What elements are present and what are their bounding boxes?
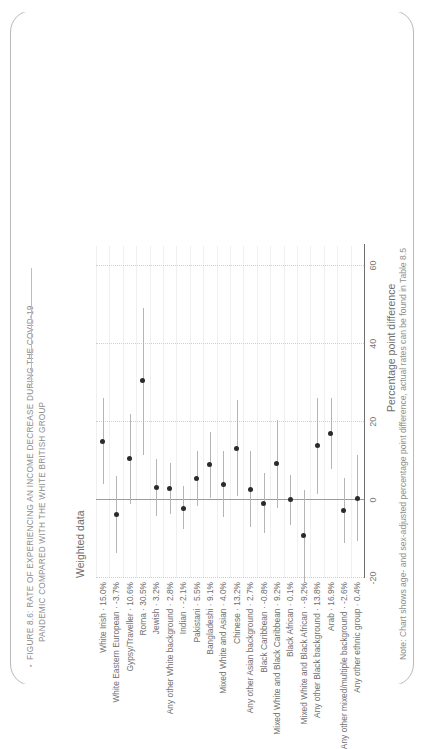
category-label: Black African · 0.1%: [285, 582, 295, 657]
category-label: Any other mixed/multiple background · -2…: [339, 582, 349, 749]
data-point[interactable]: [100, 439, 105, 444]
category-label: Gypsy/Traveller · 10.6%: [125, 582, 135, 672]
category-gridline: [243, 246, 244, 578]
category-gridline: [310, 246, 311, 578]
category-label: White Irish · 15.0%: [98, 582, 108, 653]
category-label: Roma · 30.5%: [138, 582, 148, 636]
category-label: Mixed White and Asian · 4.0%: [218, 582, 228, 694]
data-point[interactable]: [127, 456, 132, 461]
data-point[interactable]: [234, 446, 239, 451]
category-gridline: [150, 246, 151, 578]
value-gridline: [96, 264, 364, 266]
x-axis-label: Percentage point difference: [385, 284, 397, 412]
category-gridline: [176, 246, 177, 578]
x-axis-tick-label: 0: [368, 497, 378, 502]
category-label: Any other Black background · 13.8%: [312, 582, 322, 718]
category-gridline: [136, 246, 137, 578]
data-point[interactable]: [248, 487, 253, 492]
x-axis-tick-label: 40: [368, 339, 378, 349]
title-bullet-icon: ▪: [27, 665, 34, 667]
category-gridline: [351, 246, 352, 578]
category-label: Pakistani · 5.5%: [192, 582, 202, 643]
category-gridline: [109, 246, 110, 578]
category-gridline: [257, 246, 258, 578]
category-gridline: [123, 246, 124, 578]
x-axis-tick-label: -20: [368, 571, 378, 584]
data-point[interactable]: [288, 497, 293, 502]
data-point[interactable]: [207, 462, 212, 467]
chart-subtitle: Weighted data: [74, 510, 86, 578]
category-label: Any other Asian background · 2.7%: [245, 582, 255, 713]
data-point[interactable]: [355, 496, 360, 501]
category-axis-labels: White Irish · 15.0%White Eastern Europea…: [96, 582, 364, 700]
x-axis-tick-label: 20: [368, 417, 378, 427]
category-label: Bangladeshi · 9.1%: [205, 582, 215, 655]
category-gridline: [96, 246, 97, 578]
value-gridline: [96, 576, 364, 578]
data-point[interactable]: [341, 508, 346, 513]
category-gridline: [270, 246, 271, 578]
frame-mask-right: [0, 0, 423, 12]
category-gridline: [203, 246, 204, 578]
data-point[interactable]: [194, 476, 199, 481]
category-label: Arab · 16.9%: [326, 582, 336, 631]
data-point[interactable]: [301, 533, 306, 538]
category-label: Mixed White and Black Caribbean · 9.2%: [272, 582, 282, 735]
category-label: White Eastern European · -3.7%: [111, 582, 121, 703]
category-gridline: [190, 246, 191, 578]
category-label: Chinese · 13.2%: [232, 582, 242, 644]
data-point[interactable]: [154, 485, 159, 490]
data-point[interactable]: [221, 482, 226, 487]
category-label: Indian · -2.1%: [178, 582, 188, 634]
data-point[interactable]: [181, 506, 186, 511]
category-gridline: [284, 246, 285, 578]
category-label: Mixed White and Black African · -9.2%: [299, 582, 309, 724]
plot-area: [96, 246, 364, 578]
data-point[interactable]: [328, 431, 333, 436]
category-gridline: [297, 246, 298, 578]
category-gridline: [230, 246, 231, 578]
category-label: Any other White background · 2.8%: [165, 582, 175, 714]
category-gridline: [337, 246, 338, 578]
category-label: Jewish · 3.2%: [151, 582, 161, 634]
category-gridline: [217, 246, 218, 578]
data-point[interactable]: [261, 501, 266, 506]
title-rule: [31, 268, 32, 388]
value-gridline: [96, 342, 364, 344]
category-label: Black Caribbean · -0.8%: [259, 582, 269, 673]
data-point[interactable]: [274, 461, 279, 466]
page-title-line-2: PANDEMIC COMPARED WITH THE WHITE BRITISH…: [38, 402, 47, 642]
data-point[interactable]: [315, 443, 320, 448]
chart-note: Note: Chart shows age- and sex-adjusted …: [398, 248, 408, 660]
data-point[interactable]: [167, 486, 172, 491]
zero-reference-line: [96, 499, 364, 500]
category-gridline: [324, 246, 325, 578]
x-axis-tick-label: 60: [368, 261, 378, 271]
data-point[interactable]: [140, 378, 145, 383]
category-gridline: [163, 246, 164, 578]
value-axis-line: [364, 244, 365, 578]
data-point[interactable]: [114, 512, 119, 517]
category-label: Any other ethnic group · 0.4%: [352, 582, 362, 693]
value-gridline: [96, 420, 364, 422]
